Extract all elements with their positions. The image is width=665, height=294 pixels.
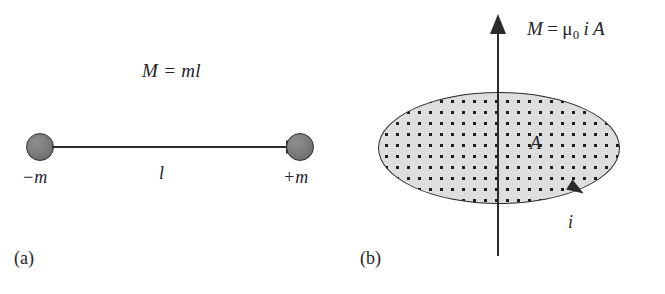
dipole-arrow-shaft (52, 146, 295, 148)
panel-a-pole-dipole: M = ml −m l +m (a) (0, 0, 340, 294)
panel-a-label: (a) (14, 248, 34, 269)
separation-length-label: l (159, 163, 164, 184)
formula-mu-symbol: μ (562, 18, 573, 39)
negative-pole-sphere (26, 133, 54, 161)
panel-b-label: (b) (360, 248, 381, 269)
negative-pole-label: −m (22, 167, 47, 188)
positive-pole-sphere (286, 133, 314, 161)
formula-current-symbol: i (583, 18, 589, 39)
moment-axis-shaft (497, 30, 499, 256)
formula-mu-subscript: 0 (573, 27, 580, 42)
formula-equals: = (547, 18, 558, 39)
formula-area-symbol: A (593, 18, 605, 39)
panel-a-formula: M = ml (142, 60, 201, 82)
magnetic-dipole-figure: M = ml −m l +m (a) M=μ0iA A i (b) (0, 0, 665, 294)
positive-pole-label: +m (283, 167, 308, 188)
panel-b-formula: M=μ0iA (527, 18, 605, 43)
current-label: i (568, 212, 573, 233)
current-loop-group (340, 0, 665, 294)
loop-area-label: A (530, 133, 541, 154)
moment-axis-arrow-head-icon (490, 14, 506, 34)
formula-lhs: M (527, 18, 543, 39)
panel-b-current-loop: M=μ0iA A i (b) (340, 0, 665, 294)
